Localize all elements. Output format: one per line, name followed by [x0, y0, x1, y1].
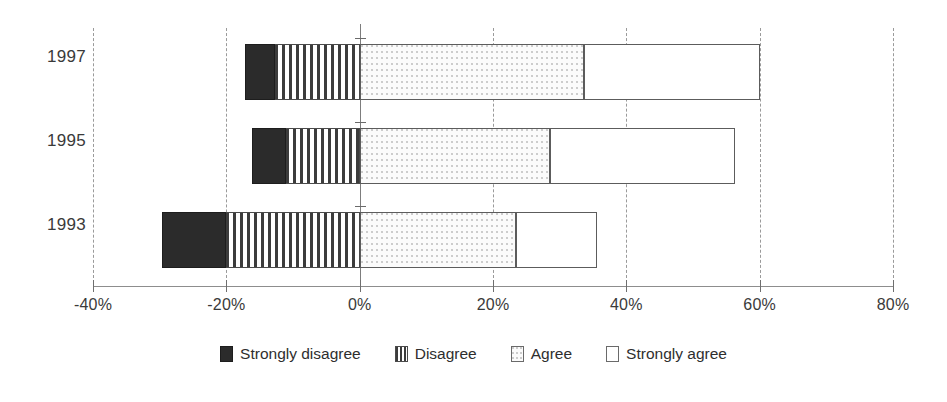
- legend-item-strongly-disagree: Strongly disagree: [220, 345, 361, 363]
- x-axis-tick-label-minus40: -40%: [53, 296, 133, 314]
- bar-segment-1995-strongly-disagree: [252, 128, 286, 184]
- x-axis-tick-60: [760, 280, 761, 292]
- legend-label-strongly-disagree: Strongly disagree: [240, 345, 361, 363]
- x-axis-tick-0: [360, 280, 361, 292]
- legend-swatch-white-icon: [606, 346, 619, 362]
- x-axis-tick-label-80: 80%: [853, 296, 933, 314]
- legend-label-disagree: Disagree: [415, 345, 477, 363]
- bar-segment-1997-disagree: [275, 44, 360, 100]
- bar-row-1993: [93, 212, 893, 268]
- chart-legend: Strongly disagree Disagree Agree Strongl…: [0, 345, 947, 363]
- legend-swatch-dotted-icon: [511, 346, 524, 362]
- diverging-stacked-bar-chart: 1997 1995 1993: [0, 0, 947, 402]
- legend-item-strongly-agree: Strongly agree: [606, 345, 727, 363]
- legend-item-disagree: Disagree: [395, 345, 477, 363]
- x-axis-tick-label-40: 40%: [586, 296, 666, 314]
- legend-swatch-striped-icon: [395, 346, 408, 362]
- x-axis-tick-label-20: 20%: [453, 296, 533, 314]
- x-axis-tick-label-60: 60%: [720, 296, 800, 314]
- bar-segment-1997-strongly-agree: [584, 44, 760, 100]
- x-axis-tick-minus40: [93, 280, 94, 292]
- x-axis-tick-20: [493, 280, 494, 292]
- legend-item-agree: Agree: [511, 345, 572, 363]
- bar-row-1997: [93, 44, 893, 100]
- x-axis-tick-label-minus20: -20%: [186, 296, 266, 314]
- legend-label-agree: Agree: [531, 345, 572, 363]
- bar-segment-1995-agree: [360, 128, 550, 184]
- bar-segment-1995-disagree: [286, 128, 359, 184]
- x-axis-tick-minus20: [226, 280, 227, 292]
- bar-segment-1993-disagree: [226, 212, 359, 268]
- x-axis-tick-80: [893, 280, 894, 292]
- gridline-80: [893, 28, 894, 278]
- zero-axis-tick-top: [355, 38, 366, 39]
- plot-area: [93, 28, 893, 278]
- bar-segment-1995-strongly-agree: [550, 128, 735, 184]
- zero-axis-tick-mid1: [355, 122, 366, 123]
- bar-segment-1993-strongly-agree: [516, 212, 597, 268]
- x-axis-tick-label-0: 0%: [320, 296, 400, 314]
- zero-axis-tick-mid2: [355, 206, 366, 207]
- y-axis-label-1993: 1993: [24, 215, 86, 235]
- x-axis-tick-40: [626, 280, 627, 292]
- y-axis-label-1997: 1997: [24, 47, 86, 67]
- bar-segment-1997-strongly-disagree: [245, 44, 275, 100]
- legend-label-strongly-agree: Strongly agree: [626, 345, 727, 363]
- legend-swatch-solid-black-icon: [220, 346, 233, 362]
- bar-segment-1997-agree: [360, 44, 584, 100]
- bar-row-1995: [93, 128, 893, 184]
- bar-segment-1993-agree: [360, 212, 516, 268]
- y-axis-label-1995: 1995: [24, 131, 86, 151]
- bar-segment-1993-strongly-disagree: [162, 212, 226, 268]
